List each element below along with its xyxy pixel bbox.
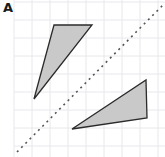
plot-area bbox=[0, 0, 165, 157]
plot-svg bbox=[0, 0, 165, 157]
shape-layer bbox=[17, 3, 165, 152]
triangle-lower-right bbox=[72, 80, 147, 129]
figure-panel-a: A bbox=[0, 0, 165, 157]
triangle-upper-left bbox=[34, 25, 92, 99]
